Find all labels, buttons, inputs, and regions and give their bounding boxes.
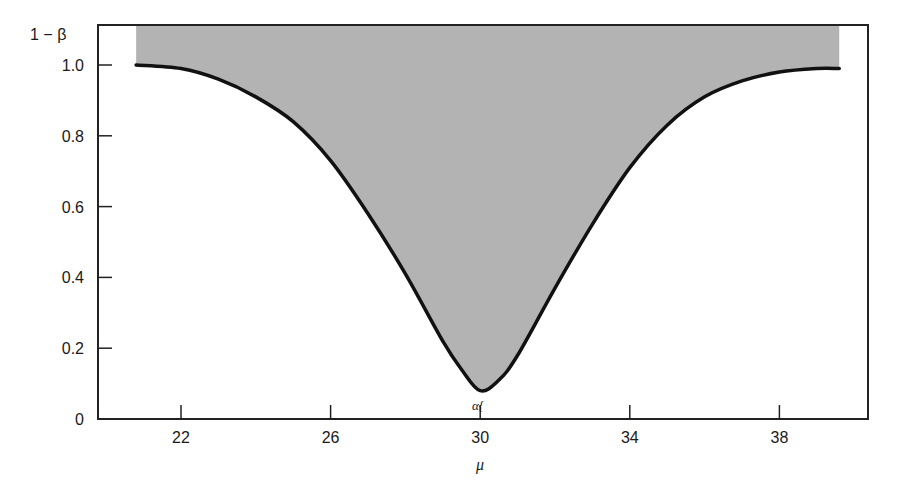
y-tick-label: 0.6 (62, 199, 84, 216)
shaded-area (136, 25, 839, 391)
x-tick-label: 22 (172, 429, 190, 446)
alpha-annotation: α{ (472, 398, 485, 413)
y-tick-label: 0.4 (62, 269, 84, 286)
y-tick-label: 0.8 (62, 128, 84, 145)
y-axis-title: 1 − β (30, 26, 66, 43)
y-axis: 00.20.40.60.81.0 (62, 57, 112, 428)
y-tick-label: 0.2 (62, 340, 84, 357)
x-tick-label: 26 (322, 429, 340, 446)
power-curve-chart: 00.20.40.60.81.0 2226303438 1 − β μ α{ (0, 0, 909, 493)
y-tick-label: 1.0 (62, 57, 84, 74)
x-tick-label: 34 (621, 429, 639, 446)
y-tick-label: 0 (75, 411, 84, 428)
x-tick-label: 38 (771, 429, 789, 446)
x-axis-title: μ (475, 456, 484, 474)
x-tick-label: 30 (471, 429, 489, 446)
